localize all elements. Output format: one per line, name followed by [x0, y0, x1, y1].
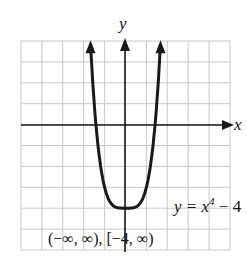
x-axis [21, 120, 234, 130]
graph [0, 0, 247, 263]
domain-range-label: (−∞, ∞), [−4, ∞) [48, 230, 154, 248]
equation-tail: − 4 [215, 197, 242, 216]
equation-base: y = x [174, 197, 209, 216]
equation-label: y = x4 − 4 [174, 195, 241, 217]
y-axis-label: y [119, 14, 127, 34]
curve-arrow-left [86, 40, 96, 53]
curve-arrow-right [155, 40, 165, 53]
x-axis-label: x [234, 115, 242, 135]
